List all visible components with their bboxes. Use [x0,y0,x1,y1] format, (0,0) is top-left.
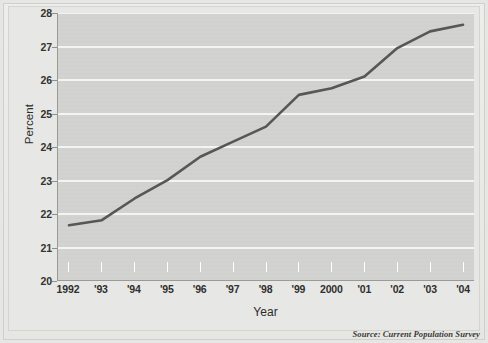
y-tick-label-22: 22 [22,208,52,220]
x-tick-label-93: '93 [94,283,108,295]
source-note: Source: Current Population Survey [353,329,480,339]
x-tick-label-96: '96 [193,283,207,295]
y-tick-mark-25 [52,114,57,115]
x-tick-label-2000: 2000 [320,283,343,295]
x-tick-label-1992: 1992 [57,283,80,295]
y-tick-mark-28 [52,13,57,14]
x-tick-mark-99 [298,262,299,272]
y-axis-tick-marks [52,13,58,281]
x-tick-mark-01 [364,262,365,272]
y-tick-mark-21 [52,248,57,249]
y-tick-label-27: 27 [22,41,52,53]
x-tick-mark-95 [167,262,168,272]
chart-figure: 202122232425262728 1992'93'94'95'96'97'9… [0,0,488,343]
y-tick-label-21: 21 [22,242,52,254]
x-tick-label-04: '04 [456,283,470,295]
x-tick-label-97: '97 [226,283,240,295]
x-tick-mark-97 [233,262,234,272]
x-axis-title: Year [57,305,474,319]
y-axis-title: Percent [23,89,35,159]
x-tick-mark-02 [397,262,398,272]
line-series-svg [58,13,474,280]
y-tick-label-28: 28 [22,7,52,19]
x-tick-mark-98 [266,262,267,272]
y-tick-mark-26 [52,80,57,81]
x-axis-tick-labels: 1992'93'94'95'96'97'98'992000'01'02'03'0… [57,283,474,299]
y-tick-label-23: 23 [22,175,52,187]
x-tick-mark-93 [101,262,102,272]
y-tick-mark-24 [52,147,57,148]
y-tick-mark-22 [52,214,57,215]
x-tick-label-95: '95 [160,283,174,295]
y-tick-mark-27 [52,47,57,48]
x-tick-label-94: '94 [127,283,141,295]
x-tick-label-99: '99 [292,283,306,295]
y-tick-label-26: 26 [22,74,52,86]
x-tick-label-01: '01 [357,283,371,295]
plot-area [57,13,474,281]
x-tick-label-02: '02 [390,283,404,295]
x-tick-mark-03 [430,262,431,272]
y-tick-label-20: 20 [22,275,52,287]
x-axis-tick-marks [57,262,474,282]
y-tick-mark-23 [52,181,57,182]
x-tick-mark-96 [200,262,201,272]
x-tick-label-03: '03 [423,283,437,295]
x-tick-mark-04 [463,262,464,272]
x-tick-mark-2000 [331,262,332,272]
data-line-percent [69,25,463,226]
x-tick-mark-94 [134,262,135,272]
x-tick-label-98: '98 [259,283,273,295]
x-tick-mark-1992 [68,262,69,272]
